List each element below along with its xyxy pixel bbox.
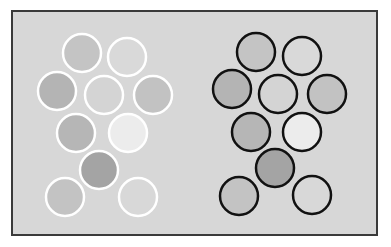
right-cluster-black-outline [213, 33, 346, 215]
right-cluster-circle-9 [220, 177, 258, 215]
left-cluster-circle-9 [46, 178, 84, 216]
left-cluster-circle-8 [80, 151, 118, 189]
right-cluster-circle-10 [293, 176, 331, 214]
left-cluster-circle-6 [57, 114, 95, 152]
left-cluster-white-outline [38, 34, 172, 216]
right-cluster-circle-1 [237, 33, 275, 71]
right-cluster-circle-2 [283, 37, 321, 75]
right-cluster-circle-3 [213, 70, 251, 108]
right-cluster-circle-4 [259, 75, 297, 113]
right-cluster-circle-5 [308, 75, 346, 113]
right-cluster-circle-7 [283, 113, 321, 151]
left-cluster-circle-7 [109, 114, 147, 152]
right-cluster-circle-6 [232, 113, 270, 151]
left-cluster-circle-3 [38, 72, 76, 110]
left-cluster-circle-1 [63, 34, 101, 72]
figure-stage [0, 0, 391, 247]
left-cluster-circle-2 [108, 38, 146, 76]
left-cluster-circle-10 [119, 178, 157, 216]
right-cluster-circle-8 [256, 149, 294, 187]
left-cluster-circle-5 [134, 76, 172, 114]
circle-clusters [0, 0, 391, 247]
left-cluster-circle-4 [85, 76, 123, 114]
